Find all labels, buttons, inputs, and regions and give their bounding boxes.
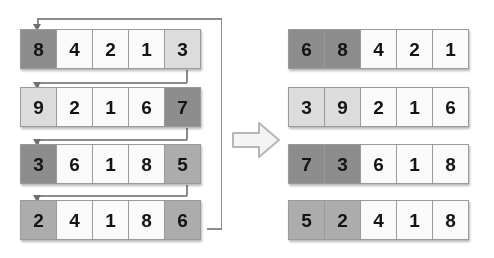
cell: 1 <box>92 87 129 127</box>
cell: 2 <box>324 200 361 240</box>
cell: 4 <box>360 29 397 69</box>
cell: 6 <box>432 87 469 127</box>
cell: 8 <box>128 200 165 240</box>
cell: 7 <box>164 87 201 127</box>
cell: 2 <box>92 29 129 69</box>
right-array-row-4: 5 2 4 1 8 <box>288 200 469 240</box>
cell: 4 <box>56 200 93 240</box>
transform-arrow-icon <box>231 120 281 164</box>
cell: 3 <box>20 144 57 184</box>
return-connector-segment-top <box>37 18 222 20</box>
connector-row1-to-row2 <box>37 82 187 84</box>
right-array-row-2: 3 9 2 1 6 <box>288 87 469 127</box>
cell: 2 <box>56 87 93 127</box>
cell: 6 <box>56 144 93 184</box>
cell: 8 <box>128 144 165 184</box>
cell: 8 <box>432 200 469 240</box>
cell: 1 <box>396 200 433 240</box>
cell: 9 <box>324 87 361 127</box>
right-array-row-1: 6 8 4 2 1 <box>288 29 469 69</box>
cell: 8 <box>20 29 57 69</box>
cell: 6 <box>360 144 397 184</box>
cell: 2 <box>20 200 57 240</box>
cell: 1 <box>432 29 469 69</box>
cell: 1 <box>396 144 433 184</box>
return-connector-segment-vertical <box>221 18 223 229</box>
cell: 1 <box>396 87 433 127</box>
cell: 1 <box>92 200 129 240</box>
left-array-row-4: 2 4 1 8 6 <box>20 200 201 240</box>
cell: 8 <box>324 29 361 69</box>
left-array-row-1: 8 4 2 1 3 <box>20 29 201 69</box>
figure-title: Array rotation by one position <box>0 0 1 1</box>
cell: 1 <box>128 29 165 69</box>
left-array-row-3: 3 6 1 8 5 <box>20 144 201 184</box>
diagram-canvas: 8 4 2 1 3 9 2 1 6 7 3 6 1 8 5 2 4 1 8 6 … <box>0 0 494 258</box>
cell: 6 <box>288 29 325 69</box>
cell: 2 <box>360 87 397 127</box>
connector-row2-to-row3 <box>37 139 187 141</box>
cell: 9 <box>20 87 57 127</box>
cell: 5 <box>288 200 325 240</box>
cell: 2 <box>396 29 433 69</box>
cell: 1 <box>92 144 129 184</box>
cell: 5 <box>164 144 201 184</box>
left-array-row-2: 9 2 1 6 7 <box>20 87 201 127</box>
cell: 7 <box>288 144 325 184</box>
right-array-row-3: 7 3 6 1 8 <box>288 144 469 184</box>
cell: 4 <box>56 29 93 69</box>
cell: 3 <box>288 87 325 127</box>
connector-row3-to-row4 <box>37 195 187 197</box>
cell: 4 <box>360 200 397 240</box>
cell: 6 <box>128 87 165 127</box>
cell: 6 <box>164 200 201 240</box>
cell: 8 <box>432 144 469 184</box>
cell: 3 <box>324 144 361 184</box>
cell: 3 <box>164 29 201 69</box>
